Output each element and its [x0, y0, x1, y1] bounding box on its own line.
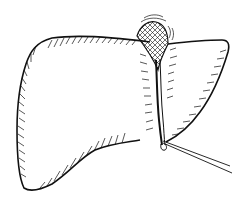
liver-drawing	[0, 0, 250, 207]
ligature	[163, 141, 232, 173]
liver-illustration: Line drawing of a liver with a ligature …	[0, 0, 250, 207]
ligament	[156, 60, 167, 150]
left-lobe	[17, 36, 150, 190]
